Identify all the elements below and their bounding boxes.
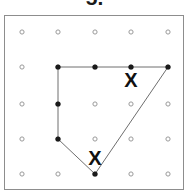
polygon-outline [58,67,168,174]
polygon-layer [58,67,168,174]
grid-peg [20,102,24,106]
grid-peg [56,30,60,34]
grid-peg [20,65,24,69]
polygon-vertex-dot [92,171,97,176]
grid-peg [129,137,133,141]
grid-peg [20,172,24,176]
grid-peg [129,172,133,176]
polygon-edge-dot [55,101,60,106]
grid-peg [56,172,60,176]
figure-frame: XX [4,15,184,190]
vertex-dot-layer [55,64,170,176]
grid-peg [166,30,170,34]
page-root: 5. XX [0,0,189,196]
grid-peg [166,172,170,176]
item-number-label: 5. [0,0,189,11]
polygon-vertex-dot [55,64,60,69]
polygon-edge-dot [92,64,97,69]
polygon-vertex-dot [165,64,170,69]
polygon-vertex-dot [55,136,60,141]
grid-peg [93,102,97,106]
grid-peg [166,137,170,141]
grid-peg [20,137,24,141]
grid-peg [93,30,97,34]
grid-peg [129,30,133,34]
grid-peg [166,102,170,106]
grid-peg [20,30,24,34]
x-mark-lower: X [88,148,101,168]
grid-peg [129,102,133,106]
grid-peg [93,137,97,141]
x-mark-upper: X [124,70,137,90]
